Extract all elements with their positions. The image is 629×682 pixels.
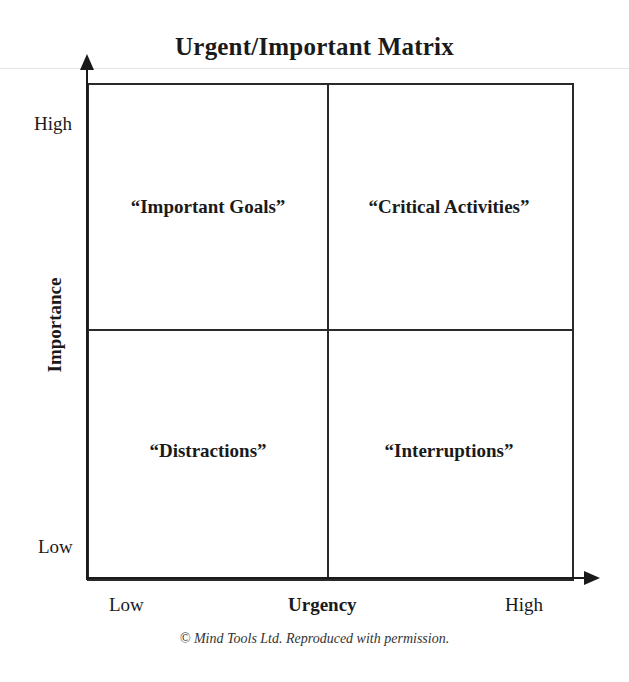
arrow-up-icon (80, 54, 94, 70)
quadrant-critical-activities: “Critical Activities” (329, 196, 569, 218)
quadrant-interruptions: “Interruptions” (329, 440, 569, 462)
quadrant-important-goals: “Important Goals” (88, 196, 328, 218)
x-axis-line (86, 577, 590, 579)
arrow-right-icon (584, 571, 600, 585)
y-axis-line (86, 62, 88, 580)
quadrant-distractions: “Distractions” (88, 440, 328, 462)
copyright-credit: © Mind Tools Ltd. Reproduced with permis… (0, 631, 629, 647)
y-axis-label: Importance (44, 278, 66, 373)
x-tick-high: High (505, 594, 543, 616)
y-tick-high: High (34, 113, 72, 135)
diagram-title: Urgent/Important Matrix (0, 33, 629, 61)
horizontal-divider (87, 329, 572, 331)
vertical-divider (327, 83, 329, 579)
matrix-frame (87, 83, 574, 581)
x-axis-label: Urgency (288, 594, 357, 616)
y-tick-low: Low (38, 536, 73, 558)
divider-line (0, 68, 629, 69)
x-tick-low: Low (109, 594, 144, 616)
